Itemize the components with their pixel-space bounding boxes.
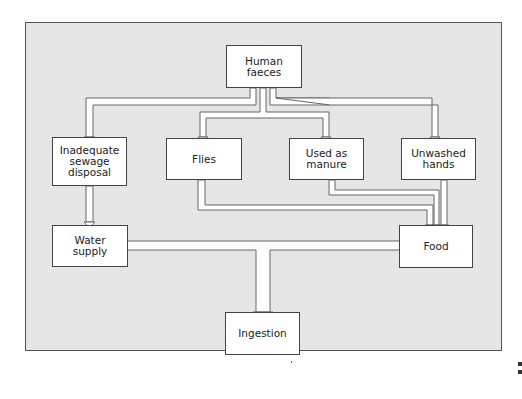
- node-food: Food: [399, 225, 473, 268]
- label: Food: [423, 241, 448, 252]
- speck: [291, 361, 292, 363]
- node-flies: Flies: [166, 138, 242, 180]
- node-unwashed-hands: Unwashedhands: [401, 138, 476, 180]
- label: Flies: [192, 154, 216, 165]
- label: hands: [411, 159, 466, 170]
- label: faeces: [245, 67, 283, 78]
- connector-faeces-flies: [200, 88, 329, 137]
- label: Ingestion: [238, 328, 286, 339]
- connector-manure-food: [329, 180, 439, 225]
- connector-sewage-water: [86, 186, 93, 222]
- node-used-as-manure: Used asmanure: [289, 138, 364, 180]
- node-inadequate-sewage: Inadequatesewagedisposal: [52, 137, 127, 186]
- margin-mark: [518, 370, 522, 374]
- node-water-supply: Watersupply: [52, 225, 128, 267]
- node-human-faeces: Humanfaeces: [226, 45, 302, 88]
- connector-hands-food: [441, 180, 447, 225]
- label: supply: [73, 246, 108, 257]
- label: Human: [245, 56, 283, 67]
- node-ingestion: Ingestion: [225, 312, 300, 355]
- connector-flies-food: [198, 180, 433, 225]
- label: disposal: [60, 167, 120, 178]
- margin-mark: [518, 362, 522, 366]
- connector-to-ingestion: [127, 241, 400, 312]
- label: manure: [306, 159, 348, 170]
